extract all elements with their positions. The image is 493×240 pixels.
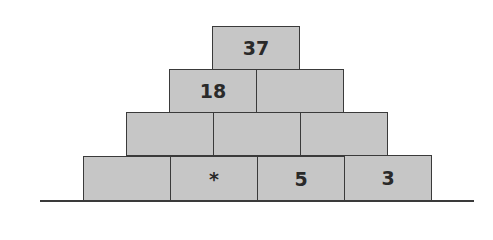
brick-row3-col3 [300, 112, 388, 156]
brick-row2-col2 [256, 69, 344, 113]
ground-line [40, 200, 474, 202]
brick-row3-col2 [213, 112, 301, 156]
brick-row4-col4: 3 [344, 155, 432, 201]
brick-value: 5 [294, 168, 307, 190]
brick-row1-col1: 37 [212, 26, 300, 70]
brick-value: 3 [381, 167, 394, 189]
brick-row4-col2: * [170, 156, 258, 201]
brick-row3-col1 [126, 112, 214, 156]
brick-value: 37 [243, 37, 269, 59]
brick-row2-col1: 18 [169, 69, 257, 113]
brick-row4-col1 [83, 156, 171, 201]
brick-row4-col3: 5 [257, 156, 345, 201]
brick-value: * [209, 168, 219, 190]
brick-value: 18 [200, 80, 226, 102]
